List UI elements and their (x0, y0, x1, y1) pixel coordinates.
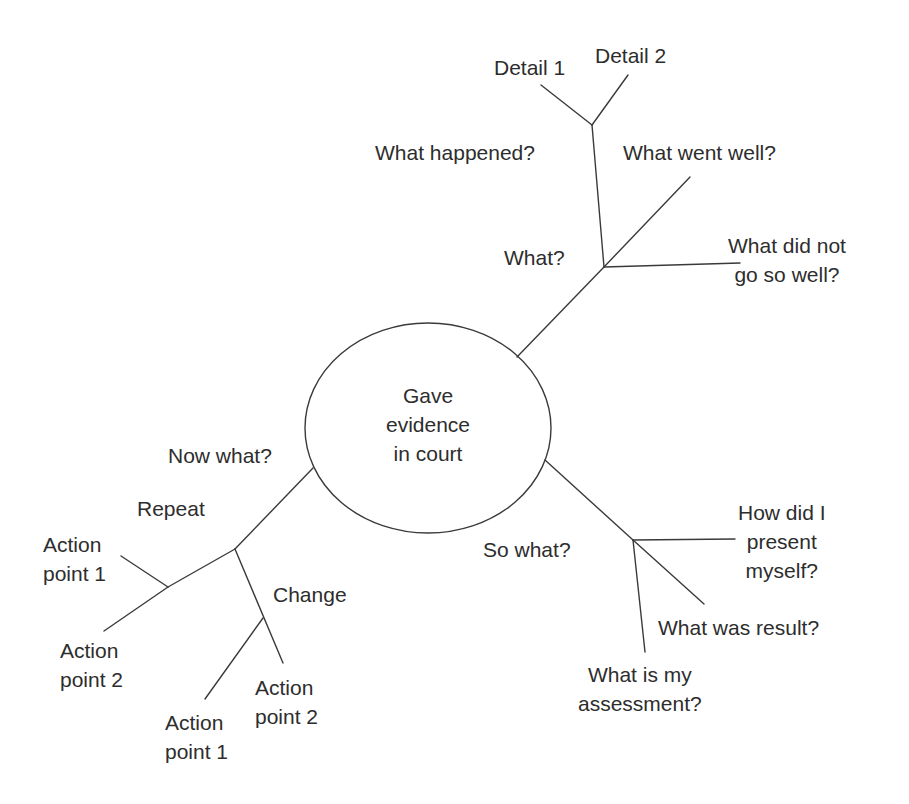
how-present-label: How did I present myself? (738, 498, 826, 585)
change-ap1-line-1: Action (165, 708, 228, 737)
detail-2-label: Detail 2 (595, 41, 666, 70)
change-ap2-line-2: point 2 (255, 702, 318, 731)
result-line (633, 540, 704, 604)
what-happened-line (592, 125, 604, 267)
what-went-well-line (604, 177, 690, 267)
assessment-label: What is my assessment? (578, 660, 702, 718)
change-ap2-line-1: Action (255, 673, 318, 702)
assessment-line-2: assessment? (578, 689, 702, 718)
detail-1-line (541, 85, 592, 125)
assessment-line-1: What is my (578, 660, 702, 689)
center-line-1: Gave (348, 381, 508, 410)
center-line-2: evidence (348, 410, 508, 439)
what-label: What? (504, 243, 565, 272)
repeat-ap1-line (121, 556, 168, 587)
repeat-ap2-line-2: point 2 (60, 665, 123, 694)
how-present-line-3: myself? (738, 556, 826, 585)
detail-2-line (592, 75, 628, 125)
repeat-ap2-line (104, 587, 168, 631)
detail-1-label: Detail 1 (494, 53, 565, 82)
repeat-label: Repeat (137, 494, 205, 523)
center-line-3: in court (348, 439, 508, 468)
what-did-not-line (604, 263, 740, 267)
repeat-ap1-line-1: Action (43, 530, 106, 559)
change-action-point-1-label: Action point 1 (165, 708, 228, 766)
change-action-point-2-label: Action point 2 (255, 673, 318, 731)
repeat-line (168, 549, 235, 587)
repeat-ap2-line-1: Action (60, 636, 123, 665)
repeat-action-point-2-label: Action point 2 (60, 636, 123, 694)
how-present-line (633, 539, 735, 540)
how-present-line-2: present (738, 527, 826, 556)
so-what-branch-line (545, 460, 633, 540)
what-did-not-label: What did not go so well? (728, 231, 846, 289)
change-ap1-line-2: point 1 (165, 737, 228, 766)
what-branch-line (517, 267, 604, 357)
now-what-label: Now what? (168, 441, 272, 470)
assessment-line (633, 540, 645, 652)
so-what-label: So what? (483, 535, 571, 564)
repeat-ap1-line-2: point 1 (43, 559, 106, 588)
center-node-label: Gave evidence in court (348, 381, 508, 468)
result-label: What was result? (658, 613, 819, 642)
change-label: Change (273, 580, 347, 609)
how-present-line-1: How did I (738, 498, 826, 527)
what-went-well-label: What went well? (623, 138, 776, 167)
what-happened-label: What happened? (375, 138, 535, 167)
what-did-not-line-2: go so well? (728, 260, 846, 289)
repeat-action-point-1-label: Action point 1 (43, 530, 106, 588)
now-what-branch-line (235, 468, 313, 549)
what-did-not-line-1: What did not (728, 231, 846, 260)
